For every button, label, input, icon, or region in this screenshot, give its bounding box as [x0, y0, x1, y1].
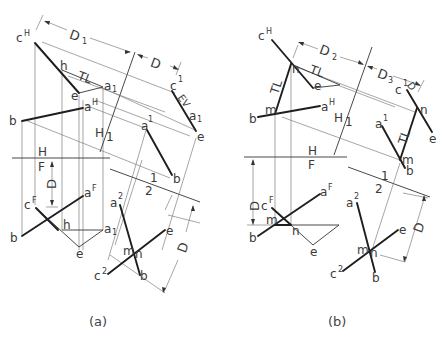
- fold-label: F: [38, 160, 45, 174]
- tl-label: TL: [267, 78, 285, 97]
- extension-line: [168, 215, 200, 223]
- dimension-label: D: [410, 220, 428, 235]
- line-ab-aux2: [357, 203, 375, 272]
- point-superscript: H: [266, 27, 272, 36]
- line-ce-front-visible: [36, 208, 58, 230]
- point-label: m: [265, 103, 277, 117]
- point-label: e: [429, 132, 436, 146]
- point-subscript: 1: [197, 115, 202, 124]
- line-e-a: [313, 225, 339, 245]
- arrow-icon: [251, 159, 255, 165]
- arrow-icon: [50, 161, 54, 167]
- point-superscript: H: [92, 98, 98, 107]
- fold-label: 1: [381, 169, 389, 183]
- point-label: c: [395, 83, 402, 97]
- dimension-label: D: [68, 27, 83, 45]
- point-label: m: [123, 244, 135, 258]
- point-label: n: [292, 62, 300, 76]
- point-label: a: [189, 109, 196, 123]
- dimension-line: [90, 38, 130, 52]
- fold-label: 1: [106, 130, 114, 144]
- point-superscript: 2: [118, 192, 123, 201]
- dimension-subscript: 2: [332, 53, 337, 62]
- point-label: b: [406, 164, 414, 178]
- point-superscript: F: [32, 196, 37, 205]
- point-label: c: [170, 79, 177, 93]
- tl-label: TL: [75, 68, 94, 86]
- dimension-subscript: 1: [82, 37, 87, 46]
- point-label: b: [10, 231, 18, 245]
- fold-label: H: [334, 111, 343, 125]
- point-label: b: [249, 231, 257, 245]
- point-label: e: [314, 79, 321, 93]
- point-label: a: [346, 196, 353, 210]
- point-label: c: [94, 269, 101, 283]
- point-label: c: [16, 31, 23, 45]
- dimension-subscript: 3: [388, 76, 393, 85]
- arrow-icon: [367, 66, 373, 70]
- arrow-icon: [251, 219, 255, 225]
- dimension-label: D: [247, 201, 262, 211]
- projector-line: [108, 130, 146, 260]
- point-label: n: [370, 246, 378, 260]
- caption-b: (b): [328, 314, 346, 329]
- extension-line: [293, 45, 298, 58]
- panel-b: H F D H 1 1 2 D 2: [244, 27, 436, 329]
- point-label: c: [24, 198, 31, 212]
- dimension-line: [164, 260, 178, 292]
- point-label: n: [135, 247, 143, 261]
- point-superscript: 2: [102, 267, 107, 276]
- point-superscript: H: [24, 29, 30, 38]
- point-superscript: 1: [403, 79, 408, 88]
- line-ab-top: [22, 108, 83, 121]
- arrow-icon: [422, 195, 426, 201]
- point-label: e: [310, 245, 317, 259]
- point-label: h: [63, 218, 71, 232]
- arrow-icon: [358, 60, 364, 65]
- point-superscript: H: [329, 98, 335, 107]
- arrow-icon: [125, 50, 131, 54]
- point-label: h: [60, 59, 68, 73]
- point-label: a: [320, 185, 327, 199]
- point-superscript: 2: [354, 192, 359, 201]
- point-label: b: [9, 114, 17, 128]
- extension-line: [418, 80, 424, 92]
- point-label: a: [375, 117, 382, 131]
- point-label: e: [166, 224, 173, 238]
- point-label: e: [197, 130, 204, 144]
- fold-label: F: [308, 158, 315, 172]
- arrow-icon: [137, 54, 143, 59]
- line-ab-aux1: [147, 130, 172, 175]
- point-label: b: [249, 112, 257, 126]
- point-label: m: [357, 243, 369, 257]
- point-label: a: [84, 100, 91, 114]
- point-superscript: F: [269, 196, 274, 205]
- arrow-icon: [191, 205, 195, 211]
- line-ab-aux2: [120, 205, 140, 275]
- point-label: a: [104, 222, 111, 236]
- line-e-a1: [79, 87, 103, 93]
- point-superscript: F: [92, 184, 97, 193]
- point-subscript: 1: [112, 228, 117, 237]
- caption-a: (a): [89, 314, 107, 329]
- dimension-label: D: [149, 55, 164, 73]
- dimension-label: D: [174, 240, 192, 255]
- fold-label: 1: [150, 171, 158, 185]
- projector-line: [340, 86, 395, 107]
- fold-label: 2: [145, 184, 153, 198]
- point-label: b: [173, 172, 181, 186]
- line-ce-top: [35, 43, 79, 93]
- point-label: n: [420, 103, 428, 117]
- fold-label: H: [38, 145, 47, 159]
- projector-line: [165, 195, 172, 210]
- point-superscript: F: [328, 183, 333, 192]
- point-subscript: 1: [112, 85, 117, 94]
- point-label: a: [84, 186, 91, 200]
- point-label: e: [76, 247, 83, 261]
- arrow-icon: [50, 200, 54, 206]
- point-label: b: [372, 271, 380, 285]
- dimension-label: D: [318, 42, 333, 60]
- point-label: a: [110, 196, 117, 210]
- panel-a: H F D H 1 1 2 D 1: [9, 15, 204, 329]
- fold-label: H: [308, 144, 317, 158]
